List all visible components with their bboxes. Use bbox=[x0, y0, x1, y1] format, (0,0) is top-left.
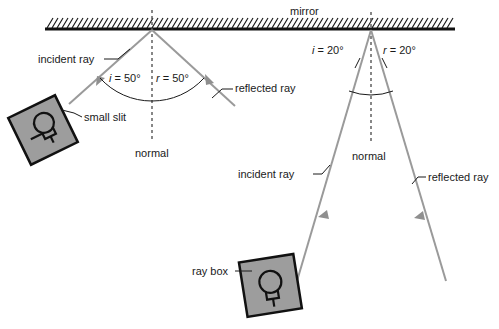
left-incident-ray bbox=[69, 30, 152, 104]
right-ray-box bbox=[239, 254, 302, 317]
right-incident-ray-label: incident ray bbox=[238, 168, 295, 180]
left-normal-label: normal bbox=[135, 147, 169, 159]
right-ray-box-body bbox=[239, 254, 302, 317]
right-angle-incidence-label: i= 20° bbox=[312, 44, 344, 56]
left-angle-incidence-label: i= 50° bbox=[109, 72, 141, 84]
right-angle-reflection-label: r= 20° bbox=[383, 44, 416, 56]
right-normal-label: normal bbox=[352, 150, 386, 162]
left-incident-ray-arrowhead bbox=[96, 76, 105, 86]
mirror-group: mirror bbox=[45, 5, 455, 29]
right-setup-group: normal i= 20° r= 20° incident ray reflec… bbox=[192, 12, 489, 317]
left-ray-box bbox=[8, 95, 78, 165]
mirror-label: mirror bbox=[290, 5, 319, 17]
left-setup-group: normal i= 50° r= 50° incident ray reflec… bbox=[8, 10, 296, 165]
left-reflected-ray-arrowhead bbox=[205, 74, 214, 85]
physics-diagram-canvas: mirror normal i= 50° r= 50° incident ray… bbox=[0, 0, 499, 329]
left-reflected-ray-label: reflected ray bbox=[235, 82, 296, 94]
right-i-symbol: i bbox=[312, 44, 315, 56]
right-i-value: = 20° bbox=[317, 44, 343, 56]
left-reflected-ray bbox=[152, 30, 235, 106]
right-incident-ray-leader bbox=[313, 165, 330, 174]
left-i-value: = 50° bbox=[114, 72, 140, 84]
mirror-hatch-icon bbox=[47, 18, 453, 28]
left-incident-ray-label: incident ray bbox=[38, 53, 95, 65]
left-r-symbol: r bbox=[156, 72, 161, 84]
reflection-diagram: mirror normal i= 50° r= 50° incident ray… bbox=[0, 0, 499, 329]
right-reflected-ray-leader bbox=[412, 177, 426, 184]
right-reflected-ray-label: reflected ray bbox=[428, 171, 489, 183]
right-r-value: = 20° bbox=[390, 44, 416, 56]
right-incident-ray-arrowhead bbox=[318, 210, 329, 219]
right-reflected-ray-arrowhead bbox=[414, 211, 425, 220]
left-angle-reflection-label: r= 50° bbox=[156, 72, 189, 84]
right-r-symbol: r bbox=[383, 44, 388, 56]
left-r-value: = 50° bbox=[163, 72, 189, 84]
left-i-symbol: i bbox=[109, 72, 112, 84]
right-ray-box-label: ray box bbox=[192, 265, 229, 277]
left-small-slit-label: small slit bbox=[84, 111, 126, 123]
left-ray-box-body bbox=[8, 95, 78, 165]
